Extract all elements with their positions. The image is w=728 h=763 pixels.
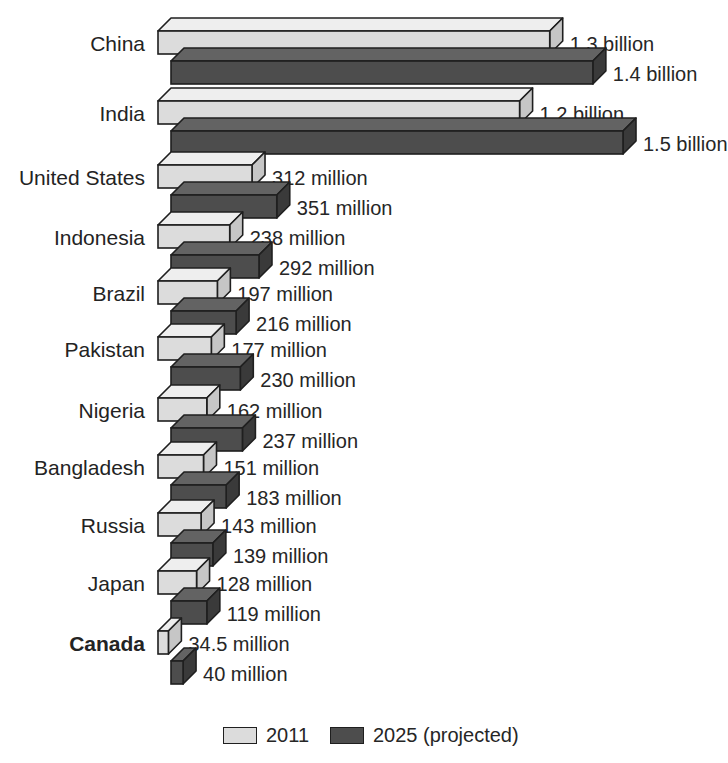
value-label-2025-brazil: 216 million: [256, 314, 352, 334]
category-label-russia: Russia: [0, 515, 145, 536]
value-label-2025-russia: 139 million: [233, 546, 329, 566]
value-label-2025-pakistan: 230 million: [260, 370, 356, 390]
bar-2025-india: [171, 118, 638, 156]
legend-swatch-2025: [330, 727, 364, 744]
category-label-china: China: [0, 33, 145, 54]
legend-item-2025: 2025 (projected): [330, 725, 519, 745]
value-label-2025-canada: 40 million: [203, 664, 287, 684]
legend-swatch-2011: [223, 727, 257, 744]
legend-item-2011: 2011: [223, 725, 309, 745]
value-label-2025-nigeria: 237 million: [262, 431, 358, 451]
category-label-united states: United States: [0, 167, 145, 188]
category-label-nigeria: Nigeria: [0, 400, 145, 421]
category-label-canada: Canada: [0, 633, 145, 654]
bar-2025-china: [171, 48, 608, 86]
chart-legend: 2011 2025 (projected): [0, 717, 637, 757]
category-label-bangladesh: Bangladesh: [0, 457, 145, 478]
value-label-2025-japan: 119 million: [227, 604, 321, 624]
value-label-2025-china: 1.4 billion: [613, 64, 698, 84]
value-label-2025-united states: 351 million: [297, 198, 393, 218]
category-label-japan: Japan: [0, 573, 145, 594]
value-label-2011-canada: 34.5 million: [188, 634, 289, 654]
value-label-2025-bangladesh: 183 million: [246, 488, 342, 508]
value-label-2025-indonesia: 292 million: [279, 258, 375, 278]
category-label-india: India: [0, 103, 145, 124]
value-label-2011-brazil: 197 million: [237, 284, 333, 304]
legend-label-2025: 2025 (projected): [373, 725, 519, 745]
category-label-indonesia: Indonesia: [0, 227, 145, 248]
bar-2025-canada: [171, 648, 198, 686]
value-label-2011-japan: 128 million: [217, 574, 313, 594]
category-label-brazil: Brazil: [0, 283, 145, 304]
value-label-2011-russia: 143 million: [221, 516, 317, 536]
category-label-pakistan: Pakistan: [0, 339, 145, 360]
legend-label-2011: 2011: [266, 725, 309, 745]
value-label-2025-india: 1.5 billion: [643, 134, 728, 154]
